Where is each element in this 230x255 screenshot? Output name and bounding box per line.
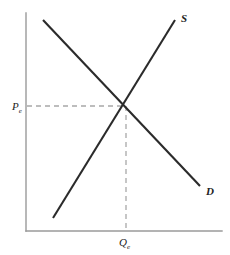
equilibrium-price-subscript: e (19, 107, 22, 115)
equilibrium-quantity-symbol: Q (119, 236, 127, 248)
supply-curve-label: S (181, 12, 187, 24)
chart-axes (26, 13, 222, 231)
equilibrium-quantity-subscript: e (127, 243, 130, 251)
equilibrium-price-label: Pe (11, 100, 22, 115)
equilibrium-quantity-label: Qe (119, 236, 130, 251)
supply-demand-figure: S D Pe Qe (0, 0, 230, 255)
demand-curve-label: D (205, 185, 214, 197)
demand-curve (43, 20, 200, 186)
